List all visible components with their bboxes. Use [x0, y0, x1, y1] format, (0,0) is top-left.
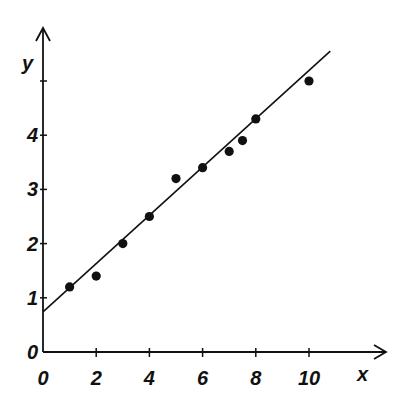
data-point: [198, 163, 207, 172]
y-tick-label: 4: [26, 124, 38, 146]
data-point: [92, 272, 101, 281]
y-axis-label: y: [21, 52, 34, 74]
data-point: [251, 114, 260, 123]
x-tick-label: 0: [37, 367, 48, 389]
x-axis-label: x: [356, 363, 369, 385]
data-point: [145, 212, 154, 221]
best-fit-line: [43, 51, 330, 312]
x-tick-label: 4: [143, 367, 155, 389]
data-point: [118, 239, 127, 248]
x-tick-label: 2: [90, 367, 102, 389]
axes: [36, 28, 386, 359]
y-tick-label: 0: [27, 341, 38, 363]
axis-ticks: 024681001234: [26, 81, 320, 389]
scatter-plot: 024681001234 x y: [0, 0, 407, 406]
x-tick-label: 6: [197, 367, 209, 389]
data-points: [65, 76, 314, 291]
data-point: [238, 136, 247, 145]
y-tick-label: 1: [27, 287, 38, 309]
x-tick-label: 8: [250, 367, 262, 389]
fit-line-segment: [43, 51, 330, 312]
x-tick-label: 10: [298, 367, 320, 389]
data-point: [225, 147, 234, 156]
data-point: [171, 174, 180, 183]
plot-area: 024681001234 x y: [0, 0, 407, 406]
y-tick-label: 2: [26, 233, 38, 255]
y-tick-label: 3: [27, 178, 38, 200]
data-point: [304, 76, 313, 85]
data-point: [65, 282, 74, 291]
